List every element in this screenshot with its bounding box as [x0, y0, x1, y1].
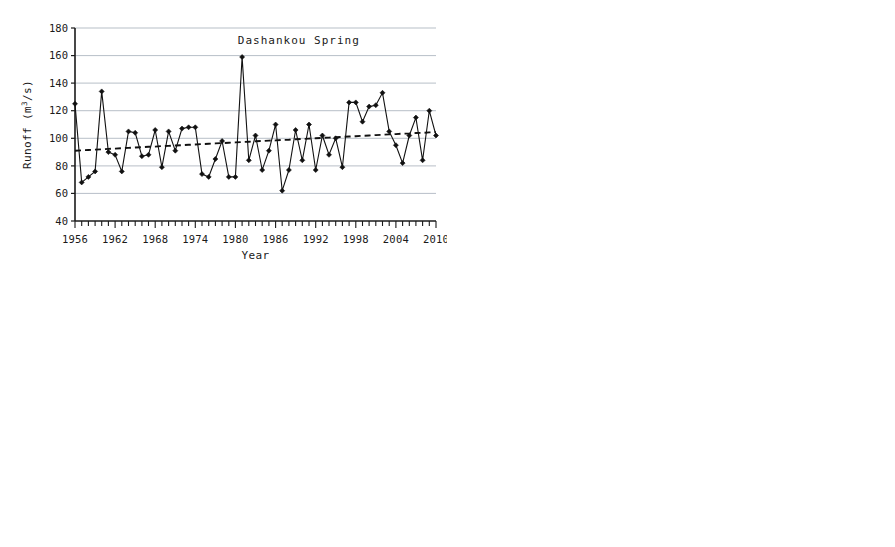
- svg-text:40: 40: [55, 215, 68, 227]
- spring-chart: 4060801001201401601801956196219681974198…: [0, 0, 447, 274]
- svg-text:120: 120: [49, 104, 68, 116]
- panel-autumn: 4090140190240290340195619621968197419801…: [0, 274, 447, 547]
- autumn-chart: 4090140190240290340195619621968197419801…: [0, 274, 447, 547]
- svg-text:1956: 1956: [62, 233, 88, 245]
- svg-text:60: 60: [55, 187, 68, 199]
- svg-text:1992: 1992: [303, 233, 329, 245]
- panel-spring: 4060801001201401601801956196219681974198…: [0, 0, 447, 274]
- svg-text:Dashankou Spring: Dashankou Spring: [238, 34, 360, 47]
- svg-text:1974: 1974: [182, 233, 208, 245]
- svg-text:2010: 2010: [423, 233, 447, 245]
- svg-text:2004: 2004: [383, 233, 409, 245]
- svg-text:1968: 1968: [142, 233, 168, 245]
- svg-text:100: 100: [49, 132, 68, 144]
- panel-winter: 0204060801001201401601801956196219681974…: [447, 274, 895, 547]
- svg-text:140: 140: [49, 77, 68, 89]
- summer-chart: 4090140190240290340390440195619621968197…: [447, 0, 895, 274]
- svg-text:Year: Year: [241, 249, 269, 262]
- svg-text:Runoff (m3/s): Runoff (m3/s): [20, 80, 34, 169]
- seasonal-runoff-figure: 4060801001201401601801956196219681974198…: [0, 0, 895, 547]
- winter-chart: 0204060801001201401601801956196219681974…: [447, 274, 895, 547]
- svg-text:1980: 1980: [222, 233, 248, 245]
- svg-text:1962: 1962: [102, 233, 128, 245]
- svg-text:160: 160: [49, 49, 68, 61]
- svg-text:80: 80: [55, 160, 68, 172]
- svg-text:1986: 1986: [263, 233, 289, 245]
- svg-text:1998: 1998: [343, 233, 369, 245]
- svg-text:180: 180: [49, 22, 68, 34]
- panel-summer: 4090140190240290340390440195619621968197…: [447, 0, 895, 274]
